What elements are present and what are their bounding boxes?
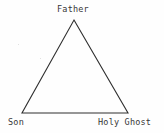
scan-speckle — [40, 58, 41, 59]
vertex-label-son: Son — [8, 117, 24, 127]
scan-speckle — [18, 44, 19, 45]
vertex-label-father: Father — [57, 4, 89, 14]
vertex-label-holy-ghost: Holy Ghost — [98, 117, 151, 127]
triangle-outline — [22, 20, 128, 113]
triangle-shape — [0, 0, 164, 133]
trinity-diagram: Father Son Holy Ghost — [0, 0, 164, 133]
